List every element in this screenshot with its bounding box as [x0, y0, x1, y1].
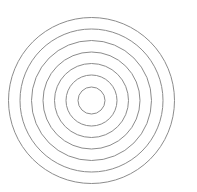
rings-group — [9, 18, 175, 184]
ring-7 — [9, 18, 175, 184]
ring-6 — [20, 29, 163, 172]
ring-4 — [43, 52, 140, 149]
ring-5 — [32, 41, 152, 161]
concentric-circles-diagram — [0, 0, 197, 192]
ring-1 — [78, 87, 105, 114]
ring-2 — [66, 75, 117, 126]
